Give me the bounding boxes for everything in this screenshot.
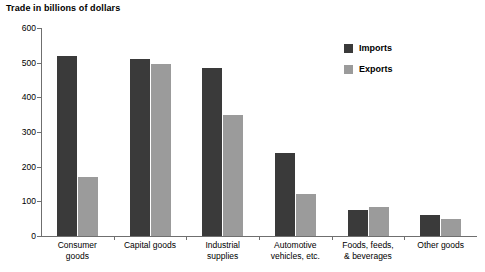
- x-axis-category-label: Capital goods: [114, 240, 187, 251]
- y-axis-labels: 600 500 400 300 200 100 0: [0, 28, 36, 236]
- bar-imports[interactable]: [420, 215, 440, 236]
- bar-group: [130, 28, 171, 236]
- bar-imports[interactable]: [57, 56, 77, 236]
- bar-exports[interactable]: [151, 64, 171, 236]
- bar-group: [202, 28, 243, 236]
- y-axis-tick: [37, 97, 41, 98]
- plot-area: [41, 28, 477, 236]
- bar-exports[interactable]: [296, 194, 316, 236]
- legend: Imports Exports: [344, 43, 393, 85]
- x-axis-category-label: Consumer goods: [41, 240, 114, 262]
- legend-label-exports: Exports: [359, 64, 393, 74]
- y-axis-tick-label: 600: [22, 24, 36, 33]
- bar-imports[interactable]: [202, 68, 222, 236]
- y-axis-tick: [37, 201, 41, 202]
- bar-group: [57, 28, 98, 236]
- bar-exports[interactable]: [441, 219, 461, 236]
- y-axis-line: [41, 28, 42, 236]
- bar-chart: Trade in billions of dollars 600 500 400…: [0, 0, 485, 272]
- bar-imports[interactable]: [130, 59, 150, 236]
- y-axis-tick: [37, 132, 41, 133]
- bar-exports[interactable]: [223, 115, 243, 236]
- y-axis-tick: [37, 167, 41, 168]
- x-axis-category-label: Industrial supplies: [186, 240, 259, 262]
- y-axis-tick: [37, 63, 41, 64]
- bar-imports[interactable]: [275, 153, 295, 236]
- y-axis-tick-label: 300: [22, 128, 36, 137]
- chart-title: Trade in billions of dollars: [6, 3, 120, 13]
- bar-group: [275, 28, 316, 236]
- y-axis-tick-label: 200: [22, 162, 36, 171]
- y-axis-tick-label: 100: [22, 197, 36, 206]
- y-axis-tick-label: 500: [22, 58, 36, 67]
- y-axis-tick: [37, 28, 41, 29]
- legend-item-imports: Imports: [344, 43, 393, 53]
- y-axis-tick-label: 0: [31, 232, 36, 241]
- legend-swatch-imports: [344, 44, 353, 53]
- x-axis-category-label: Automotive vehicles, etc.: [259, 240, 332, 262]
- bar-group: [420, 28, 461, 236]
- x-axis-category-label: Foods, feeds, & beverages: [332, 240, 405, 262]
- bar-exports[interactable]: [369, 207, 389, 236]
- legend-label-imports: Imports: [359, 43, 392, 53]
- bar-exports[interactable]: [78, 177, 98, 236]
- y-axis-tick-label: 400: [22, 93, 36, 102]
- x-axis-category-label: Other goods: [404, 240, 477, 251]
- legend-swatch-exports: [344, 65, 353, 74]
- y-axis-tick: [37, 236, 41, 237]
- legend-item-exports: Exports: [344, 64, 393, 74]
- bar-imports[interactable]: [348, 210, 368, 236]
